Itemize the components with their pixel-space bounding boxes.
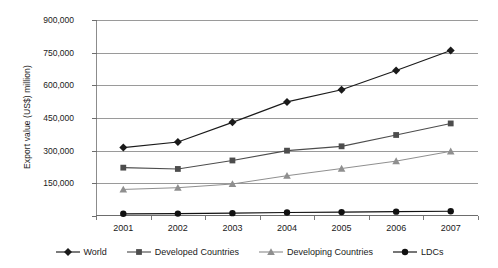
- data-point-marker: [339, 143, 345, 149]
- x-tick-mark: [369, 216, 370, 220]
- data-point-marker: [228, 118, 236, 126]
- legend-label: Developing Countries: [287, 247, 373, 257]
- x-tick-label: 2004: [257, 223, 317, 233]
- legend-label: World: [84, 247, 107, 257]
- data-point-marker: [393, 132, 399, 138]
- data-point-marker: [448, 208, 454, 214]
- series-developed-countries: [120, 121, 453, 172]
- data-point-marker: [136, 249, 142, 255]
- data-point-marker: [392, 67, 400, 75]
- data-point-marker: [64, 248, 72, 256]
- legend-item-ldcs[interactable]: LDCs: [392, 246, 444, 258]
- x-tick-label: 2006: [366, 223, 426, 233]
- series-line: [123, 151, 450, 189]
- x-tick-label: 2003: [202, 223, 262, 233]
- legend-item-developing-countries[interactable]: Developing Countries: [258, 246, 373, 258]
- y-tick-label: 600,000: [0, 81, 74, 90]
- x-tick-mark: [478, 216, 479, 220]
- data-point-marker: [175, 210, 181, 216]
- legend-item-developed-countries[interactable]: Developed Countries: [126, 246, 239, 258]
- circle-marker-icon: [392, 246, 418, 258]
- plot-area: 150,000300,000450,000600,000750,000900,0…: [96, 20, 478, 216]
- series-ldcs: [120, 208, 454, 217]
- x-tick-label: 2005: [312, 223, 372, 233]
- data-point-marker: [447, 46, 455, 54]
- data-point-marker: [284, 209, 290, 215]
- data-point-marker: [448, 121, 454, 127]
- legend-label: LDCs: [421, 247, 444, 257]
- triangle-marker-icon: [258, 246, 284, 258]
- y-tick-label: 900,000: [0, 16, 74, 25]
- x-tick-mark: [96, 216, 97, 220]
- x-tick-label: 2007: [421, 223, 481, 233]
- data-point-marker: [120, 211, 126, 217]
- square-marker-icon: [126, 246, 152, 258]
- data-point-marker: [174, 138, 182, 146]
- data-point-marker: [338, 86, 346, 94]
- data-point-marker: [230, 158, 236, 164]
- data-point-marker: [284, 148, 290, 154]
- series-line: [123, 123, 450, 169]
- legend-item-world[interactable]: World: [55, 246, 107, 258]
- x-tick-label: 2001: [93, 223, 153, 233]
- data-point-marker: [338, 209, 344, 215]
- chart-legend: WorldDeveloped CountriesDeveloping Count…: [0, 246, 498, 258]
- x-tick-mark: [260, 216, 261, 220]
- x-tick-mark: [314, 216, 315, 220]
- x-tick-mark: [151, 216, 152, 220]
- y-tick-label: 300,000: [0, 147, 74, 156]
- y-tick-label: 150,000: [0, 179, 74, 188]
- data-point-marker: [283, 98, 291, 106]
- x-tick-label: 2002: [148, 223, 208, 233]
- data-point-marker: [393, 208, 399, 214]
- data-point-marker: [402, 249, 408, 255]
- x-tick-mark: [423, 216, 424, 220]
- data-point-marker: [175, 166, 181, 172]
- y-tick-label: 450,000: [0, 114, 74, 123]
- data-point-marker: [229, 210, 235, 216]
- y-tick-label: 750,000: [0, 49, 74, 58]
- series-world: [119, 46, 454, 151]
- data-point-marker: [447, 148, 455, 155]
- series-layer: [96, 20, 478, 216]
- x-tick-mark: [205, 216, 206, 220]
- export-value-line-chart: Export value (US$) million) 150,000300,0…: [0, 0, 498, 268]
- series-developing-countries: [119, 148, 454, 193]
- data-point-marker: [120, 165, 126, 171]
- legend-label: Developed Countries: [155, 247, 239, 257]
- data-point-marker: [119, 144, 127, 152]
- diamond-marker-icon: [55, 246, 81, 258]
